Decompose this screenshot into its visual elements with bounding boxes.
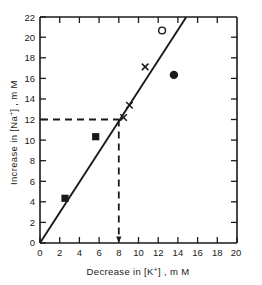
data-point-filled-circle [170,71,178,79]
chart-figure: Increase in [Na+] , m M Decrease in [K+]… [0,0,262,285]
x-axis-title: Decrease in [K+] , m M [87,266,190,278]
y-tick-label: 18 [24,52,35,63]
x-tick-label: 18 [212,247,223,258]
x-tick-label: 0 [37,247,42,258]
series-open-circle [159,27,166,34]
x-tick-label: 14 [173,247,184,258]
x-tick-label: 6 [96,247,101,258]
svg-text:Decrease in [K+] , m M: Decrease in [K+] , m M [87,266,190,278]
y-tick-label: 0 [30,237,35,248]
data-point-square [92,133,99,140]
x-tick-label: 2 [57,247,62,258]
x-tick-label: 20 [231,247,242,258]
scatter-plot-svg: Increase in [Na+] , m M Decrease in [K+]… [0,0,262,285]
y-tick-label: 6 [30,176,35,187]
x-tick-label: 4 [77,247,82,258]
y-tick-label: 8 [30,155,35,166]
svg-text:Increase in [Na+] , m M: Increase in [Na+] , m M [8,80,20,185]
x-tick-label: 12 [153,247,164,258]
data-point-square [61,195,68,202]
x-tick-label: 10 [133,247,144,258]
y-tick-label: 14 [24,93,35,104]
x-axis-title-suffix: ] , m M [158,266,189,277]
y-tick-label: 16 [24,73,35,84]
y-tick-label: 20 [24,32,35,43]
series-filled-circle [170,71,178,79]
y-tick-label: 22 [24,12,35,23]
y-axis-title: Increase in [Na+] , m M [8,80,20,185]
y-tick-label: 12 [24,114,35,125]
y-axis-title-prefix: Increase in [Na [8,115,19,185]
x-axis-title-prefix: Decrease in [K [87,266,155,277]
x-tick-label: 8 [116,247,121,258]
data-point-open-circle [159,27,166,34]
y-axis-title-suffix: ] , m M [8,80,19,111]
y-tick-label: 2 [30,217,35,228]
x-tick-label: 16 [192,247,203,258]
y-tick-label: 4 [30,196,35,207]
y-tick-label: 10 [24,135,35,146]
